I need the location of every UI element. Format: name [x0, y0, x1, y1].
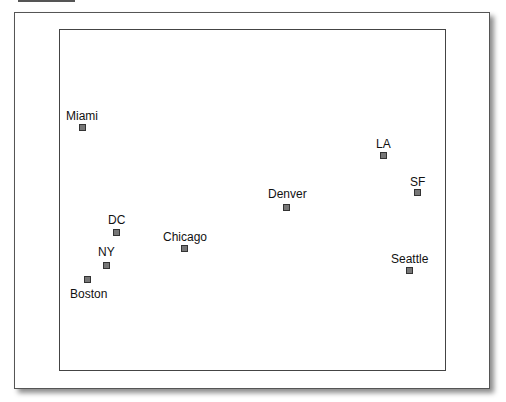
- plot-area: [59, 29, 446, 371]
- city-marker-denver: [283, 204, 290, 211]
- city-marker-dc: [113, 229, 120, 236]
- city-marker-seattle: [406, 267, 413, 274]
- city-label-denver: Denver: [268, 188, 307, 200]
- city-marker-ny: [103, 262, 110, 269]
- city-label-sf: SF: [410, 176, 425, 188]
- city-marker-miami: [79, 124, 86, 131]
- cropped-header-bar: [18, 0, 75, 2]
- city-marker-chicago: [181, 245, 188, 252]
- city-label-boston: Boston: [70, 288, 107, 300]
- city-label-dc: DC: [108, 214, 125, 226]
- city-marker-boston: [84, 276, 91, 283]
- city-label-ny: NY: [98, 246, 115, 258]
- city-marker-la: [380, 152, 387, 159]
- city-label-seattle: Seattle: [391, 253, 428, 265]
- city-marker-sf: [414, 189, 421, 196]
- city-label-miami: Miami: [66, 110, 98, 122]
- city-label-chicago: Chicago: [163, 231, 207, 243]
- city-label-la: LA: [376, 138, 391, 150]
